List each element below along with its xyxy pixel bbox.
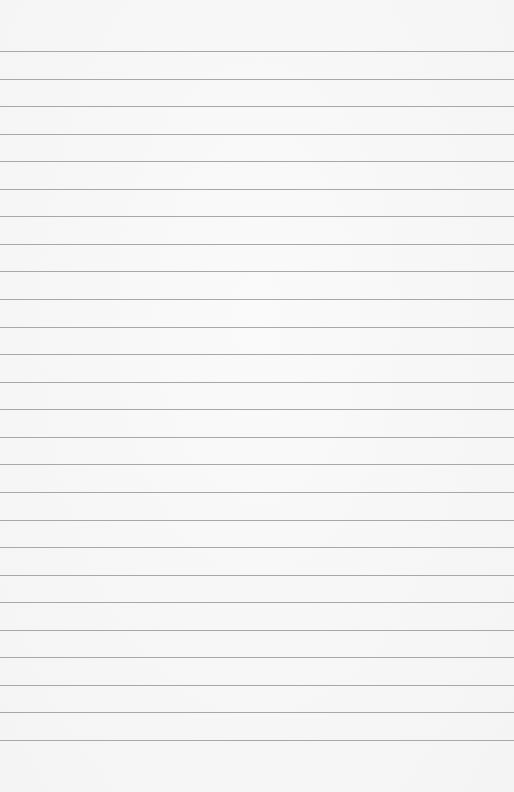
ruled-line	[0, 244, 514, 245]
ruled-line	[0, 79, 514, 80]
ruled-line	[0, 464, 514, 465]
ruled-line	[0, 602, 514, 603]
ruled-line	[0, 51, 514, 52]
ruled-line	[0, 630, 514, 631]
ruled-line	[0, 712, 514, 713]
ruled-line	[0, 161, 514, 162]
ruled-line	[0, 134, 514, 135]
ruled-line	[0, 354, 514, 355]
ruled-line	[0, 547, 514, 548]
ruled-line	[0, 740, 514, 741]
ruled-line	[0, 575, 514, 576]
ruled-line	[0, 271, 514, 272]
ruled-line	[0, 492, 514, 493]
ruled-line	[0, 382, 514, 383]
ruled-line	[0, 106, 514, 107]
lined-paper	[0, 0, 514, 792]
ruled-line	[0, 216, 514, 217]
ruled-line	[0, 520, 514, 521]
ruled-line	[0, 189, 514, 190]
ruled-line	[0, 437, 514, 438]
ruled-line	[0, 409, 514, 410]
ruled-line	[0, 327, 514, 328]
ruled-line	[0, 299, 514, 300]
ruled-line	[0, 657, 514, 658]
ruled-line	[0, 685, 514, 686]
